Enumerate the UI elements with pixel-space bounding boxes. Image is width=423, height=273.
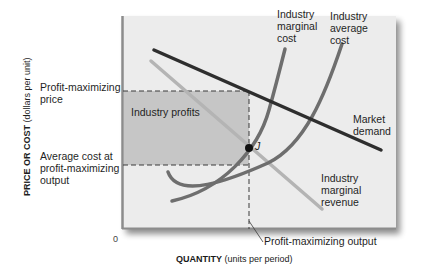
mr-label-line1: Industry [321, 172, 361, 184]
mc-label-line1: Industry [277, 8, 317, 20]
avg-cost-tick-line2: profit-maximizing [40, 162, 119, 174]
y-axis-title-rest: (dollars per unit) [22, 57, 32, 125]
ac-label-line3: cost [330, 34, 368, 46]
x-axis-title-rest: (units per period) [222, 254, 293, 264]
price-tick-line2: price [40, 93, 121, 105]
avg-cost-tick-line1: Average cost at [40, 150, 119, 162]
y-axis-title-bold: PRICE OR COST [22, 125, 32, 196]
mc-label-line2: marginal [277, 20, 317, 32]
ac-label-line1: Industry [330, 10, 368, 22]
mr-curve-label: Industry marginal revenue [321, 172, 361, 208]
origin-label: 0 [113, 233, 118, 245]
mr-label-line2: marginal [321, 184, 361, 196]
demand-label-line2: demand [353, 125, 391, 137]
price-tick-line1: Profit-maximizing [40, 81, 121, 93]
point-j-marker [245, 144, 253, 152]
demand-label-line1: Market [353, 113, 391, 125]
mc-label-line3: cost [277, 32, 317, 44]
mc-curve-label: Industry marginal cost [277, 8, 317, 44]
point-j-label: J [255, 140, 260, 152]
x-axis-title: QUANTITY (units per period) [176, 254, 293, 264]
ac-curve-label: Industry average cost [330, 10, 368, 46]
demand-curve-label: Market demand [353, 113, 391, 137]
output-marker-label: Profit-maximizing output [264, 235, 377, 247]
mr-label-line3: revenue [321, 196, 361, 208]
ac-label-line2: average [330, 22, 368, 34]
industry-profits-label: Industry profits [131, 106, 200, 118]
profit-maximization-diagram: PRICE OR COST (dollars per unit) Profit-… [0, 0, 423, 273]
price-tick-label: Profit-maximizing price [40, 81, 121, 105]
y-axis-title: PRICE OR COST (dollars per unit) [22, 16, 36, 196]
x-axis-title-bold: QUANTITY [176, 254, 222, 264]
avg-cost-tick-line3: output [40, 174, 119, 186]
avg-cost-tick-label: Average cost at profit-maximizing output [40, 150, 119, 186]
